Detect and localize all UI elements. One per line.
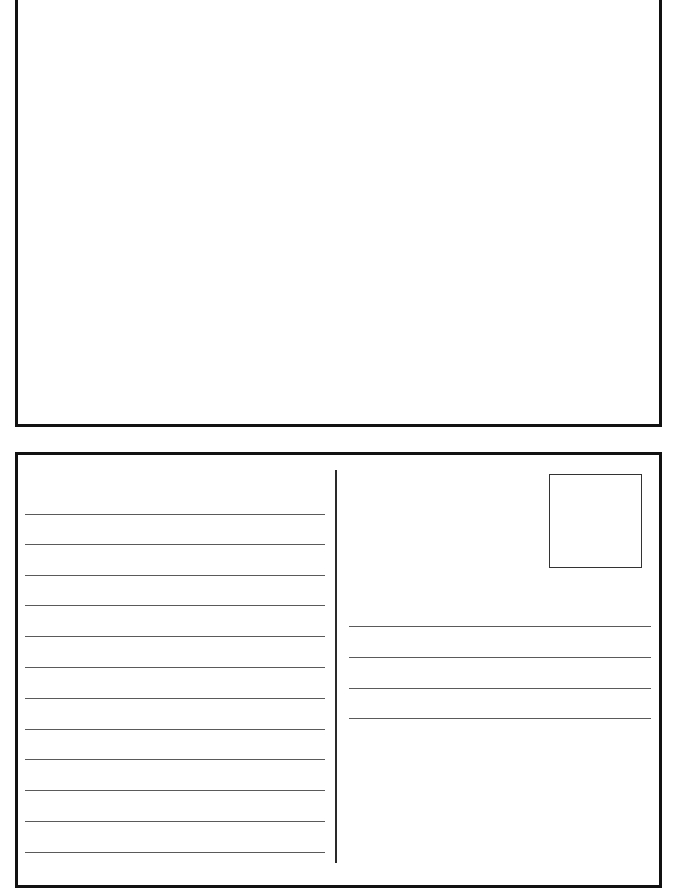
address-line — [349, 657, 651, 658]
message-line — [25, 544, 325, 545]
message-line — [25, 605, 325, 606]
message-line — [25, 667, 325, 668]
message-line — [25, 575, 325, 576]
postcard-front-frame — [15, 0, 662, 427]
address-line — [349, 688, 651, 689]
message-line — [25, 514, 325, 515]
message-line — [25, 821, 325, 822]
message-line — [25, 636, 325, 637]
message-line — [25, 698, 325, 699]
message-line — [25, 790, 325, 791]
message-line — [25, 759, 325, 760]
message-line — [25, 729, 325, 730]
message-line — [25, 852, 325, 853]
back-divider-line — [335, 470, 337, 863]
stamp-box — [549, 474, 642, 568]
address-line — [349, 718, 651, 719]
address-line — [349, 626, 651, 627]
